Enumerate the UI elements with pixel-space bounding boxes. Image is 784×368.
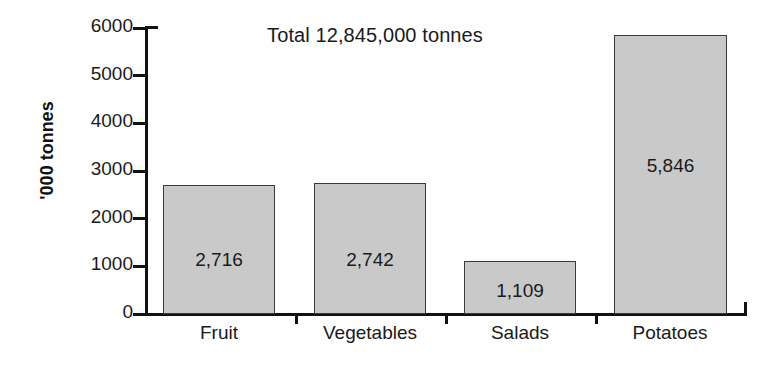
y-tick-4000 (133, 122, 147, 125)
bar-value-fruit: 2,716 (159, 249, 279, 271)
bar-value-salads: 1,109 (460, 280, 580, 302)
x-category-label-potatoes: Potatoes (590, 322, 750, 344)
x-category-label-vegetables: Vegetables (290, 322, 450, 344)
y-tick-label-5000: 5000 (53, 63, 133, 85)
x-category-label-salads: Salads (440, 322, 600, 344)
y-tick-label-3000: 3000 (53, 158, 133, 180)
bar-value-vegetables: 2,742 (310, 249, 430, 271)
y-tick-label-6000: 6000 (53, 15, 133, 37)
bar-chart: Total 12,845,000 tonnes '000 tonnes 0100… (0, 0, 784, 368)
y-tick-0 (133, 313, 147, 316)
y-tick-2000 (133, 217, 147, 220)
x-category-label-fruit: Fruit (139, 322, 299, 344)
y-tick-1000 (133, 265, 147, 268)
y-axis-tick-labels: 0100020003000400050006000 (48, 0, 133, 368)
x-axis-right-cap (744, 302, 747, 316)
y-tick-6000 (133, 27, 147, 30)
y-tick-label-4000: 4000 (53, 110, 133, 132)
y-tick-label-0: 0 (53, 301, 133, 323)
y-tick-3000 (133, 170, 147, 173)
y-tick-label-2000: 2000 (53, 206, 133, 228)
chart-title: Total 12,845,000 tonnes (150, 24, 600, 47)
y-tick-label-1000: 1000 (53, 253, 133, 275)
bar-value-potatoes: 5,846 (611, 155, 731, 177)
y-tick-5000 (133, 74, 147, 77)
